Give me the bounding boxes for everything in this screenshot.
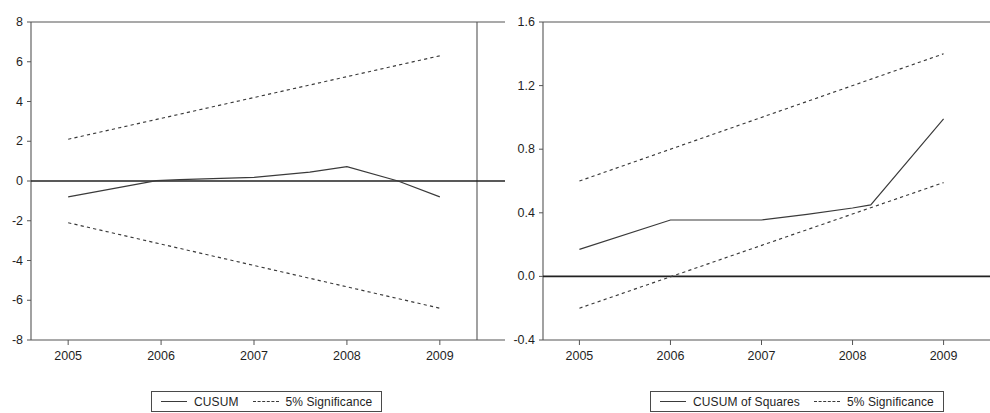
legend-label-cusum: CUSUM xyxy=(194,396,239,408)
x-tick-label: 2008 xyxy=(839,349,867,363)
cusum-of-squares-chart-panel: 1.61.20.80.40.0-0.420052006200720082009 xyxy=(510,0,990,413)
legend-label-cusum-of-squares: CUSUM of Squares xyxy=(693,396,800,408)
y-tick-label: -6 xyxy=(12,293,23,307)
cusum-legend: CUSUM 5% Significance xyxy=(151,391,382,412)
y-tick-label: -2 xyxy=(12,214,23,228)
legend-label-significance: 5% Significance xyxy=(847,396,934,408)
y-tick-label: 2 xyxy=(16,134,23,148)
series-line xyxy=(579,183,943,309)
dashed-line-swatch-icon xyxy=(814,401,840,402)
y-tick-label: 0.4 xyxy=(518,206,535,220)
series-line xyxy=(68,223,440,308)
y-tick-label: 6 xyxy=(16,55,23,69)
y-tick-label: 4 xyxy=(16,95,23,109)
y-tick-label: 0.0 xyxy=(518,269,535,283)
y-tick-label: -8 xyxy=(12,333,23,347)
x-tick-label: 2006 xyxy=(657,349,685,363)
legend-entry-cusum: CUSUM xyxy=(161,396,239,408)
x-tick-label: 2008 xyxy=(333,349,361,363)
y-tick-label: -0.4 xyxy=(513,333,535,347)
x-tick-label: 2005 xyxy=(54,349,82,363)
x-tick-label: 2007 xyxy=(240,349,268,363)
series-line xyxy=(579,119,943,249)
cusum-of-squares-legend: CUSUM of Squares 5% Significance xyxy=(650,391,944,412)
x-tick-label: 2005 xyxy=(566,349,594,363)
solid-line-swatch-icon xyxy=(161,401,187,402)
y-tick-label: 8 xyxy=(16,15,23,29)
cusum-plot: 86420-2-4-6-820052006200720082009 xyxy=(0,0,510,380)
legend-entry-significance: 5% Significance xyxy=(814,396,934,408)
y-tick-label: 0.8 xyxy=(518,142,535,156)
x-tick-label: 2007 xyxy=(748,349,776,363)
y-tick-label: 1.6 xyxy=(518,15,535,29)
x-tick-label: 2009 xyxy=(930,349,958,363)
x-tick-label: 2006 xyxy=(147,349,175,363)
y-tick-label: 1.2 xyxy=(518,79,535,93)
legend-entry-significance: 5% Significance xyxy=(253,396,373,408)
y-tick-label: 0 xyxy=(16,174,23,188)
cusum-of-squares-plot: 1.61.20.80.40.0-0.420052006200720082009 xyxy=(510,0,990,380)
solid-line-swatch-icon xyxy=(660,401,686,402)
cusum-stability-figure: 86420-2-4-6-820052006200720082009 1.61.2… xyxy=(0,0,990,413)
legend-entry-cusum-of-squares: CUSUM of Squares xyxy=(660,396,800,408)
y-tick-label: -4 xyxy=(12,254,23,268)
series-line xyxy=(579,54,943,181)
legend-label-significance: 5% Significance xyxy=(286,396,373,408)
series-line xyxy=(68,56,440,139)
x-tick-label: 2009 xyxy=(426,349,454,363)
cusum-chart-panel: 86420-2-4-6-820052006200720082009 xyxy=(0,0,510,413)
dashed-line-swatch-icon xyxy=(253,401,279,402)
